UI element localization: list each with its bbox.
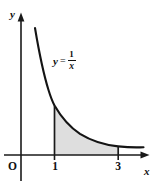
equation-relation: = bbox=[60, 55, 66, 66]
equation-fraction: 1 x bbox=[68, 50, 76, 72]
curve-equation-label: y = 1 x bbox=[53, 50, 76, 72]
tick-label-x1: 1 bbox=[50, 161, 60, 173]
tick-label-x3: 3 bbox=[113, 161, 123, 173]
x-axis-label: x bbox=[144, 166, 150, 177]
equation-denominator: x bbox=[68, 61, 75, 72]
origin-label: O bbox=[8, 161, 17, 173]
equation-lhs: y bbox=[53, 55, 58, 67]
y-axis-arrowhead-icon bbox=[18, 13, 25, 22]
figure-container: y x O 1 3 y = 1 x bbox=[0, 0, 156, 188]
figure-canvas bbox=[0, 0, 156, 188]
equation-numerator: 1 bbox=[68, 50, 75, 60]
hyperbola-curve bbox=[35, 28, 144, 147]
y-axis-label: y bbox=[10, 9, 15, 20]
shaded-region bbox=[55, 106, 119, 156]
x-axis-arrowhead-icon bbox=[141, 152, 150, 159]
